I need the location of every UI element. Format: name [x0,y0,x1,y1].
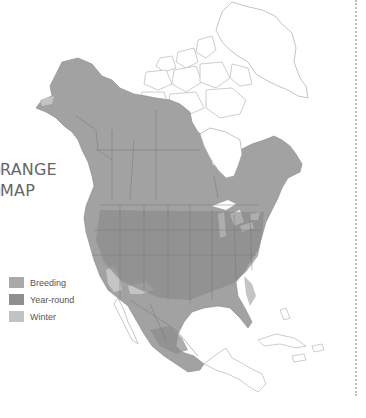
title-shadow-2 [0,182,4,200]
range-map-title: RANGE MAP [0,159,57,201]
range-map [0,0,366,418]
legend-item-year-round: Year-round [9,292,74,307]
map-legend: Breeding Year-round Winter [9,275,74,326]
dotted-divider [355,0,357,396]
title-line-2: MAP [0,180,57,201]
year-round-swatch [9,294,24,305]
legend-item-breeding: Breeding [9,275,74,290]
legend-label-winter: Winter [30,312,56,322]
greenland-outline [216,2,308,98]
legend-label-year-round: Year-round [30,295,74,305]
winter-swatch [9,311,24,322]
title-shadow [0,161,4,179]
legend-label-breeding: Breeding [30,278,66,288]
central-america-outline [204,348,266,392]
breeding-swatch [9,277,24,288]
title-line-1: RANGE [0,159,57,180]
legend-item-winter: Winter [9,309,74,324]
caribbean-islands [258,308,324,362]
